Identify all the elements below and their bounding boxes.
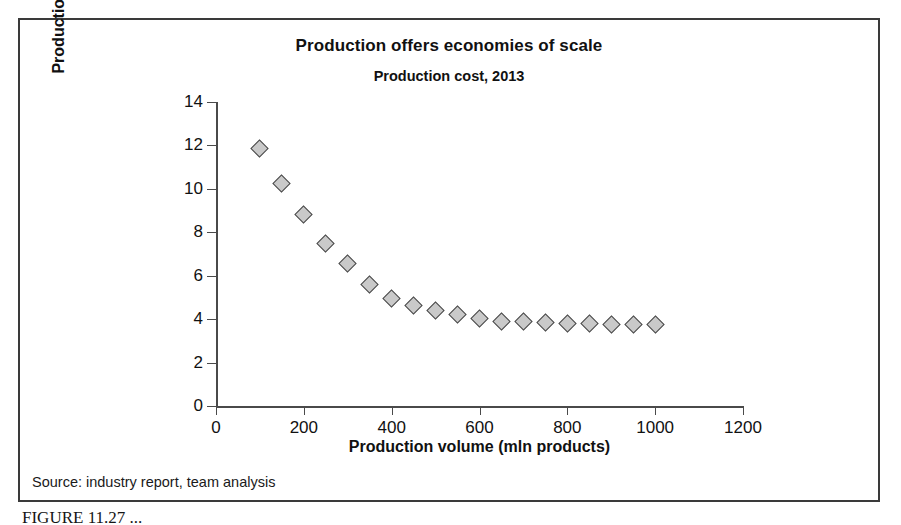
x-tick: [655, 406, 656, 415]
y-tick: [207, 102, 216, 103]
data-point-marker: [492, 312, 510, 330]
x-tick-label: 400: [377, 418, 405, 438]
y-tick-label: 6: [194, 266, 203, 286]
data-point-marker: [536, 313, 554, 331]
x-tick: [392, 406, 393, 415]
x-tick: [216, 406, 217, 415]
x-tick: [304, 406, 305, 415]
source-note: Source: industry report, team analysis: [32, 474, 275, 490]
y-tick: [207, 406, 216, 407]
exhibit-frame: Production offers economies of scale Pro…: [18, 18, 880, 502]
y-tick-label: 14: [184, 92, 203, 112]
y-tick: [207, 232, 216, 233]
data-point-marker: [646, 315, 664, 333]
data-point-marker: [317, 234, 335, 252]
data-point-marker: [602, 315, 620, 333]
data-point-marker: [404, 296, 422, 314]
y-tick-label: 2: [194, 353, 203, 373]
x-axis-title: Production volume (mln products): [216, 438, 743, 456]
data-point-marker: [295, 206, 313, 224]
x-tick-label: 1200: [724, 418, 762, 438]
data-series-production-cost: [216, 102, 692, 406]
data-point-marker: [558, 314, 576, 332]
data-point-marker: [361, 275, 379, 293]
y-tick-label: 4: [194, 309, 203, 329]
data-point-marker: [514, 312, 532, 330]
y-tick-label: 12: [184, 135, 203, 155]
y-tick-label: 8: [194, 222, 203, 242]
y-tick-label: 10: [184, 179, 203, 199]
x-tick: [567, 406, 568, 415]
data-point-marker: [382, 289, 400, 307]
y-tick: [207, 363, 216, 364]
x-tick-label: 1000: [636, 418, 674, 438]
figure-caption: FIGURE 11.27 ...: [22, 508, 882, 525]
chart-title: Production offers economies of scale: [20, 36, 878, 56]
y-axis-title: Production cost per product ($): [48, 0, 70, 104]
y-tick-label: 0: [194, 396, 203, 416]
data-point-marker: [580, 314, 598, 332]
x-tick-label: 600: [465, 418, 493, 438]
data-point-marker: [339, 255, 357, 273]
x-tick: [480, 406, 481, 415]
chart-subtitle: Production cost, 2013: [20, 68, 878, 84]
data-point-marker: [470, 309, 488, 327]
data-point-marker: [624, 315, 642, 333]
data-point-marker: [251, 139, 269, 157]
x-tick-label: 0: [211, 418, 220, 438]
data-point-marker: [273, 174, 291, 192]
y-tick: [207, 276, 216, 277]
plot-area: 02468101214 020040060080010001200: [216, 102, 692, 406]
y-tick: [207, 145, 216, 146]
data-point-marker: [426, 301, 444, 319]
data-point-marker: [448, 306, 466, 324]
y-tick: [207, 319, 216, 320]
y-tick: [207, 189, 216, 190]
x-tick-label: 200: [290, 418, 318, 438]
x-tick-label: 800: [553, 418, 581, 438]
x-tick: [743, 406, 744, 415]
